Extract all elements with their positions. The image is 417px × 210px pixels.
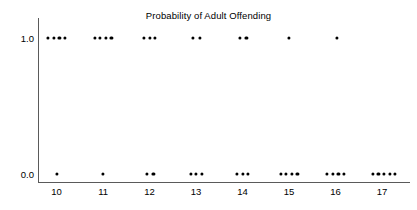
data-point — [371, 172, 374, 175]
data-point — [198, 36, 201, 39]
data-point — [99, 36, 102, 39]
data-point — [247, 172, 250, 175]
data-point — [152, 172, 155, 175]
data-point — [331, 172, 334, 175]
plot-area — [38, 18, 410, 182]
data-point — [145, 172, 148, 175]
data-point — [296, 172, 299, 175]
data-point — [200, 172, 203, 175]
data-point — [342, 172, 345, 175]
y-axis-tick-labels: 1.00.0 — [0, 0, 34, 210]
data-point — [195, 172, 198, 175]
data-point — [93, 36, 96, 39]
x-tick-label: 13 — [191, 186, 202, 197]
data-point — [279, 172, 282, 175]
data-point — [382, 172, 385, 175]
data-point — [154, 36, 157, 39]
data-point — [337, 172, 340, 175]
data-point — [241, 172, 244, 175]
data-point — [192, 36, 195, 39]
data-point — [55, 172, 58, 175]
data-point — [285, 172, 288, 175]
x-tick-label: 11 — [98, 186, 108, 197]
x-tick-label: 15 — [284, 186, 295, 197]
data-point — [189, 172, 192, 175]
data-point — [110, 36, 113, 39]
data-point — [52, 36, 55, 39]
data-point — [102, 172, 105, 175]
data-point — [288, 36, 291, 39]
x-tick-label: 14 — [237, 186, 248, 197]
data-point — [58, 36, 61, 39]
data-point — [377, 172, 380, 175]
data-point — [47, 36, 50, 39]
x-tick-label: 10 — [51, 186, 62, 197]
data-point — [245, 36, 248, 39]
y-tick-label: 0.0 — [4, 169, 34, 180]
x-tick-label: 16 — [330, 186, 341, 197]
x-tick-label: 12 — [144, 186, 155, 197]
data-point — [238, 36, 241, 39]
data-point — [148, 36, 151, 39]
x-axis-line — [38, 182, 410, 183]
data-point — [235, 172, 238, 175]
x-tick-label: 17 — [377, 186, 388, 197]
data-point — [326, 172, 329, 175]
y-tick-label: 1.0 — [4, 33, 34, 44]
data-point — [104, 36, 107, 39]
data-point — [142, 36, 145, 39]
data-point — [63, 36, 66, 39]
scatter-chart: Probability of Adult Offending 1.00.0 10… — [0, 0, 417, 210]
x-axis-tick-labels: 1011121314151617 — [38, 186, 410, 202]
data-point — [394, 172, 397, 175]
data-point — [290, 172, 293, 175]
data-point — [388, 172, 391, 175]
data-point — [335, 36, 338, 39]
